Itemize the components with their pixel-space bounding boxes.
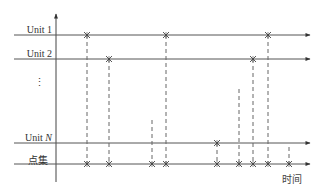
time-axis-label: 时间 [282, 171, 302, 186]
event-markers [84, 32, 292, 167]
row-label-unit-1: Unit 1 [14, 24, 52, 35]
row-label-unit-n: Unit N [10, 132, 52, 143]
event-dashed-lines [87, 35, 289, 164]
row-label-point-set: 点集 [14, 152, 48, 167]
unit-timelines [14, 35, 310, 164]
row-label-unit-2: Unit 2 [14, 48, 52, 59]
vertical-ellipsis: ⋮ [34, 80, 45, 85]
